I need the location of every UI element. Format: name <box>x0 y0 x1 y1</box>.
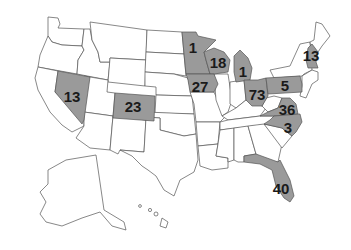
value-iowa: 27 <box>192 79 209 94</box>
state-hawaii <box>139 205 168 228</box>
value-ohio: 73 <box>249 87 266 102</box>
value-florida: 40 <box>273 181 290 196</box>
value-minnesota: 1 <box>189 40 197 55</box>
value-michigan: 1 <box>239 64 247 79</box>
value-virginia: 36 <box>279 102 296 117</box>
us-map <box>0 0 351 250</box>
value-pennsylvania: 5 <box>281 78 289 93</box>
value-nevada: 13 <box>64 89 81 104</box>
value-north-carolina: 3 <box>284 120 292 135</box>
value-new-hampshire: 13 <box>303 48 320 63</box>
value-wisconsin: 18 <box>210 55 227 70</box>
value-colorado: 23 <box>125 99 142 114</box>
state-alaska <box>40 155 126 230</box>
